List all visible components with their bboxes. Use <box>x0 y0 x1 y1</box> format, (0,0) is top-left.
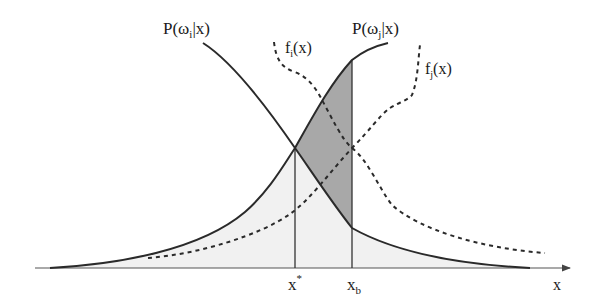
x-star-label: x* <box>288 272 302 294</box>
diagram-canvas: P(ωi|x) P(ωj|x) fi(x) fj(x) x* xb x <box>0 0 600 302</box>
x-axis-label: x <box>553 276 561 293</box>
density-j-label: fj(x) <box>425 60 452 80</box>
posterior-i-label: P(ωi|x) <box>163 19 210 40</box>
posterior-j-label: P(ωj|x) <box>352 19 399 40</box>
density-i-label: fi(x) <box>285 39 312 59</box>
x-b-label: xb <box>347 275 362 296</box>
light-overlap-region <box>50 148 530 268</box>
